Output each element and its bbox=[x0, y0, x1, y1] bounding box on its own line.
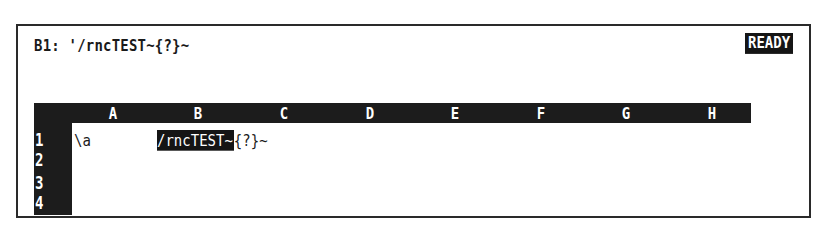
cell-b1[interactable]: /rncTEST~{?}~ bbox=[157, 130, 268, 151]
cell-address: B1: bbox=[34, 36, 60, 54]
column-header-h[interactable]: H bbox=[702, 102, 722, 125]
column-header-e[interactable]: E bbox=[445, 102, 465, 125]
cell-pointer-b1[interactable]: /rncTEST~ bbox=[157, 130, 234, 151]
row-header-1[interactable]: 1 bbox=[35, 130, 43, 149]
row-header-4[interactable]: 4 bbox=[35, 193, 43, 212]
column-header-g[interactable]: G bbox=[616, 102, 636, 125]
mode-indicator: READY bbox=[745, 33, 793, 54]
column-header-a[interactable]: A bbox=[103, 102, 123, 125]
row-header-column: 1 2 3 4 bbox=[34, 123, 72, 215]
cell-b1-overflow-text: {?}~ bbox=[234, 131, 268, 149]
column-header-c[interactable]: C bbox=[274, 102, 294, 125]
row-header-2[interactable]: 2 bbox=[35, 150, 43, 169]
column-header-f[interactable]: F bbox=[531, 102, 551, 125]
control-panel-line: B1: '/rncTEST~{?}~ bbox=[34, 36, 189, 54]
row-header-3[interactable]: 3 bbox=[35, 173, 43, 192]
column-header-b[interactable]: B bbox=[188, 102, 208, 125]
column-header-d[interactable]: D bbox=[360, 102, 380, 125]
cell-contents: '/rncTEST~{?}~ bbox=[69, 36, 190, 54]
column-header-bar: A B C D E F G H bbox=[34, 103, 751, 123]
cell-a1[interactable]: \a bbox=[74, 130, 91, 151]
